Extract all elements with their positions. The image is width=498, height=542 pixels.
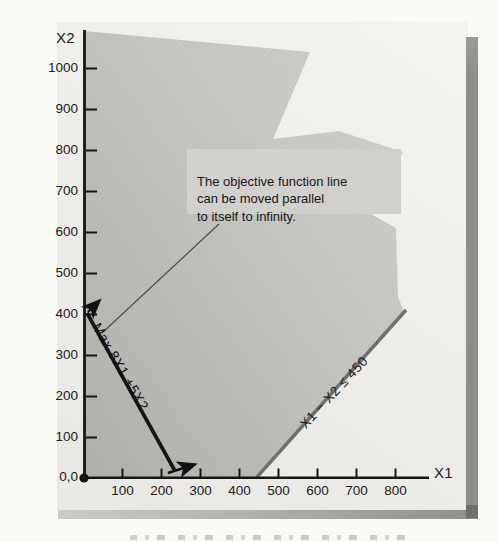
origin-label: 0,0 bbox=[26, 469, 78, 484]
y-tick-label: 400 bbox=[26, 306, 78, 321]
x-tick-label: 400 bbox=[218, 483, 262, 498]
x-tick-label: 100 bbox=[101, 483, 145, 498]
x-tick-label: 200 bbox=[140, 483, 184, 498]
x-tick-label: 300 bbox=[179, 483, 223, 498]
y-tick-label: 1000 bbox=[26, 60, 78, 75]
x-tick-label: 600 bbox=[296, 483, 340, 498]
feasible-region-texture bbox=[84, 31, 404, 477]
x-axis-title: X1 bbox=[434, 464, 453, 481]
y-tick-label: 300 bbox=[26, 347, 78, 362]
y-tick-label: 100 bbox=[26, 429, 78, 444]
y-axis-title: X2 bbox=[56, 29, 75, 46]
origin-dot bbox=[79, 473, 88, 482]
y-tick-label: 200 bbox=[26, 388, 78, 403]
y-tick-label: 900 bbox=[26, 101, 78, 116]
x-tick-label: 800 bbox=[374, 483, 418, 498]
y-tick-label: 700 bbox=[26, 183, 78, 198]
y-tick-label: 800 bbox=[26, 142, 78, 157]
x-tick-label: 500 bbox=[257, 483, 301, 498]
annotation-box: The objective function line can be moved… bbox=[187, 149, 401, 214]
figure-stage: X2 X1 0,0 100200300400500600700800100200… bbox=[0, 0, 498, 542]
cropped-caption-fragment bbox=[130, 535, 416, 540]
y-tick-label: 500 bbox=[26, 265, 78, 280]
y-tick-label: 600 bbox=[26, 224, 78, 239]
x-tick-label: 700 bbox=[335, 483, 379, 498]
